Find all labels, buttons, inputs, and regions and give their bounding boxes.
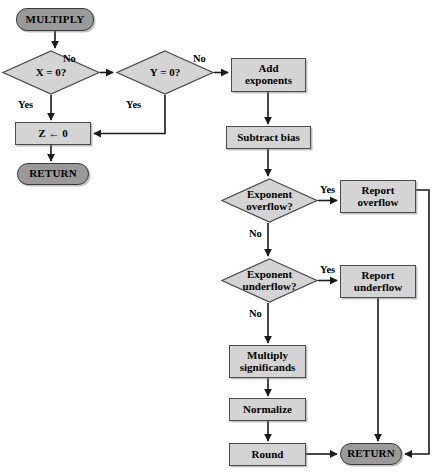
node-exponent-overflow[interactable]: Exponentoverflow? <box>221 178 318 223</box>
node-label: Exponentunderflow? <box>243 269 297 293</box>
node-label: Z ← 0 <box>38 128 67 140</box>
node-add-exponents[interactable]: Addexponents <box>231 58 306 92</box>
node-multiply-start[interactable]: MULTIPLY <box>16 8 94 31</box>
node-report-underflow[interactable]: Reportunderflow <box>340 265 416 298</box>
flowchart-canvas: MULTIPLY RETURN RETURN X = 0? Y = 0? Exp… <box>0 0 447 475</box>
node-round[interactable]: Round <box>229 443 306 466</box>
node-subtract-bias[interactable]: Subtract bias <box>226 126 311 149</box>
edge-label-text: No <box>249 228 262 239</box>
edge-label-underflow-yes: Yes <box>320 264 335 275</box>
edge-label-text: No <box>63 53 76 64</box>
edge-label-text: Yes <box>320 184 335 195</box>
node-label: Subtract bias <box>237 132 300 144</box>
edge-label-y-yes: Yes <box>126 99 141 110</box>
edge-label-underflow-no: No <box>249 308 262 319</box>
node-label: Multiplysignificands <box>240 350 296 374</box>
node-label: Reportunderflow <box>354 270 402 294</box>
edge-label-text: No <box>249 308 262 319</box>
edge-label-text: No <box>193 53 206 64</box>
edge-label-x-no: No <box>63 53 76 64</box>
node-z-assign-zero[interactable]: Z ← 0 <box>15 122 91 145</box>
node-label: Addexponents <box>245 63 292 87</box>
node-return-left[interactable]: RETURN <box>17 163 89 185</box>
node-label: X = 0? <box>36 67 67 79</box>
node-label: RETURN <box>347 448 395 460</box>
node-exponent-underflow[interactable]: Exponentunderflow? <box>221 258 318 303</box>
node-normalize[interactable]: Normalize <box>229 398 306 421</box>
node-report-overflow[interactable]: Reportoverflow <box>340 180 416 213</box>
edge-report-overflow-to-return <box>405 190 429 454</box>
node-label: Reportoverflow <box>358 185 399 209</box>
edge-label-text: Yes <box>126 99 141 110</box>
edge-label-overflow-no: No <box>249 228 262 239</box>
node-x-is-zero[interactable]: X = 0? <box>2 50 100 95</box>
node-label: RETURN <box>29 168 77 180</box>
node-return-right[interactable]: RETURN <box>340 443 402 465</box>
node-label: Y = 0? <box>150 67 180 79</box>
edge-label-text: Yes <box>18 99 33 110</box>
edge-label-text: Yes <box>320 264 335 275</box>
edge-label-x-yes: Yes <box>18 99 33 110</box>
edge-label-y-no: No <box>193 53 206 64</box>
node-label: Exponentoverflow? <box>246 189 292 213</box>
node-label: Round <box>252 449 284 461</box>
edge-label-overflow-yes: Yes <box>320 184 335 195</box>
node-label: MULTIPLY <box>26 14 85 26</box>
node-label: Normalize <box>243 404 292 416</box>
node-multiply-significands[interactable]: Multiplysignificands <box>229 345 306 378</box>
